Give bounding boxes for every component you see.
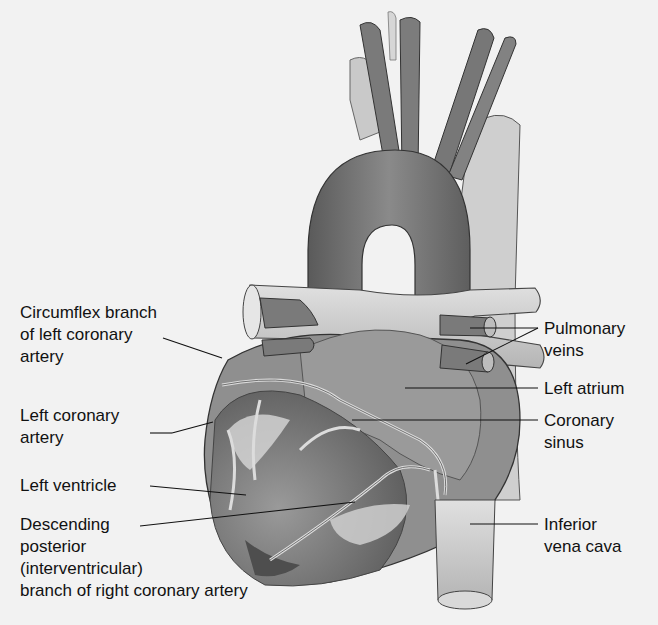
label-line: Pulmonary [544,318,625,340]
label-pulmonary-veins: Pulmonary veins [544,318,625,362]
label-left-atrium: Left atrium [544,378,624,400]
label-line: Left atrium [544,378,624,400]
label-line: Left ventricle [20,475,116,497]
label-inferior-vena-cava: Inferior vena cava [544,514,622,558]
label-line: Circumflex branch [20,302,157,324]
label-left-ventricle: Left ventricle [20,475,116,497]
label-line: vena cava [544,536,622,558]
label-line: Left coronary [20,405,119,427]
label-descending-posterior-branch: Descending posterior (interventricular) … [20,514,248,602]
heart-diagram: Circumflex branch of left coronary arter… [0,0,658,625]
label-line: Coronary [544,410,614,432]
label-line: artery [20,346,157,368]
label-circumflex-branch: Circumflex branch of left coronary arter… [20,302,157,368]
label-line: veins [544,340,625,362]
label-left-coronary-artery: Left coronary artery [20,405,119,449]
label-line: sinus [544,432,614,454]
label-line: artery [20,427,119,449]
label-line: (interventricular) [20,558,248,580]
label-line: branch of right coronary artery [20,580,248,602]
label-line: Inferior [544,514,622,536]
label-line: of left coronary [20,324,157,346]
label-line: Descending [20,514,248,536]
inferior-vena-cava-drawing [435,500,495,609]
label-coronary-sinus: Coronary sinus [544,410,614,454]
label-line: posterior [20,536,248,558]
